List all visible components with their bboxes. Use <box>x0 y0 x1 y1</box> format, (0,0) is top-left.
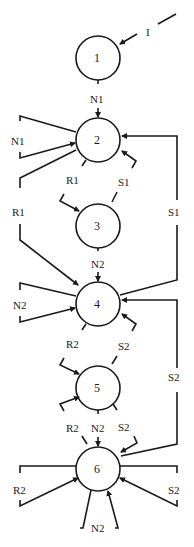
edge-label-r2-loop: R2 <box>13 484 26 496</box>
edge-label-n1-loop: N1 <box>11 135 24 147</box>
state-6-label: 6 <box>94 462 100 476</box>
edge-2-to-3: R1 <box>60 160 86 211</box>
state-3: 3 <box>76 204 120 248</box>
edge-label-s2-long: S2 <box>168 371 180 383</box>
edge-1-to-2: N1 <box>90 80 103 117</box>
edge-label-n2-6: N2 <box>91 422 104 434</box>
edge-3-to-2: S1 <box>112 151 136 202</box>
edge-4-to-2: S1 <box>120 136 180 295</box>
edge-label-r2: R2 <box>66 338 79 350</box>
state-4: 4 <box>76 282 120 326</box>
state-5: 5 <box>76 366 120 410</box>
edge-5-to-6: R2 N2 S2 <box>66 404 137 452</box>
edge-label-s1-long: S1 <box>168 206 180 218</box>
state-1: 1 <box>76 36 120 80</box>
edge-6-self-r2: R2 <box>13 466 78 506</box>
edge-6-to-4: S2 <box>121 300 180 456</box>
edge-label-s2-loop: S2 <box>168 484 180 496</box>
edge-4-to-5: R2 <box>60 324 86 374</box>
edge-2-to-4: R1 <box>12 150 78 285</box>
edge-label-initial: I <box>146 26 150 38</box>
edge-label-s2-6: S2 <box>118 421 130 433</box>
edge-label-n2-loop-6: N2 <box>91 522 104 534</box>
state-6: 6 <box>76 447 120 491</box>
edge-label-n2: N2 <box>91 258 104 270</box>
edge-4-self-loop: N2 <box>13 283 76 322</box>
edge-6-self-s2: S2 <box>120 466 180 506</box>
edge-label-n2-loop: N2 <box>13 299 26 311</box>
state-1-label: 1 <box>94 51 100 65</box>
edge-3-to-4: N2 <box>91 248 104 281</box>
edge-label-r1: R1 <box>66 174 79 186</box>
state-3-label: 3 <box>94 219 100 233</box>
state-2: 2 <box>76 118 120 162</box>
edge-5-to-4: S2 <box>112 314 136 364</box>
state-5-label: 5 <box>94 381 100 395</box>
edge-label-r1-long: R1 <box>12 206 25 218</box>
edge-label-r2-6: R2 <box>66 422 79 434</box>
state-2-label: 2 <box>94 133 100 147</box>
edge-5-self-r2 <box>60 397 79 411</box>
initial-edge: I <box>120 14 176 44</box>
edge-label-n1: N1 <box>90 93 103 105</box>
edge-2-self-loop: N1 <box>11 116 76 158</box>
state-4-label: 4 <box>94 297 100 311</box>
edge-label-s1: S1 <box>118 176 130 188</box>
edge-label-s2: S2 <box>118 340 130 352</box>
edge-6-self-n2: N2 <box>80 490 118 534</box>
state-diagram: I 1 N1 2 N1 R1 S1 3 R1 <box>0 0 194 547</box>
